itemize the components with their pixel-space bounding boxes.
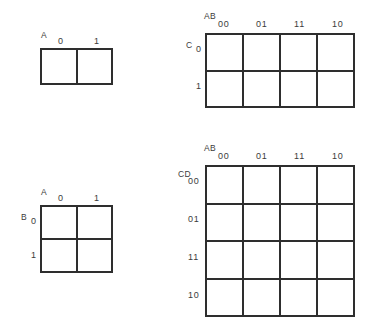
kmap-cell[interactable] [244,72,281,109]
kmap-cell[interactable] [244,35,281,72]
kmap-cell[interactable] [244,205,281,243]
kmap-cell[interactable] [207,205,244,243]
kmap-cell[interactable] [78,50,114,85]
column-header-1: 1 [94,36,100,46]
kmap-cell[interactable] [207,242,244,280]
column-header-1: 1 [94,193,100,203]
column-header-01: 01 [256,151,268,161]
column-header-00: 00 [218,151,230,161]
column-variable-label: AB [204,143,216,153]
kmap-cell[interactable] [318,35,355,72]
kmap-cell[interactable] [244,167,281,205]
row-header-0: 0 [31,216,37,226]
kmap-cell[interactable] [207,280,244,318]
kmap-cell[interactable] [318,280,355,318]
column-header-10: 10 [332,19,344,29]
column-header-00: 00 [218,19,230,29]
kmap-cell[interactable] [281,242,318,280]
kmap-cell[interactable] [78,207,114,240]
column-header-11: 11 [294,19,305,29]
row-header-11: 11 [188,252,199,262]
row-header-1: 1 [31,250,37,260]
kmap-cell[interactable] [42,50,78,85]
kmap-cell[interactable] [281,35,318,72]
kmap-cell[interactable] [281,167,318,205]
kmap-cell[interactable] [281,205,318,243]
kmap-grid [40,205,113,273]
kmap-cell[interactable] [244,280,281,318]
column-variable-label: AB [204,11,216,21]
column-header-0: 0 [58,36,64,46]
column-variable-label: A [41,30,47,40]
kmap-cell[interactable] [42,240,78,273]
kmap-cell[interactable] [42,207,78,240]
kmap-cell[interactable] [207,72,244,109]
kmap-cell[interactable] [318,167,355,205]
column-header-01: 01 [256,19,268,29]
kmap-cell[interactable] [318,242,355,280]
kmap-cell[interactable] [318,72,355,109]
kmap-cell[interactable] [281,280,318,318]
column-variable-label: A [41,187,47,197]
kmap-cell[interactable] [318,205,355,243]
kmap-cell[interactable] [78,240,114,273]
column-header-10: 10 [332,151,344,161]
row-header-1: 1 [196,81,202,91]
kmap-cell[interactable] [244,242,281,280]
column-header-11: 11 [294,151,305,161]
row-header-01: 01 [188,214,200,224]
row-variable-label: C [186,40,193,50]
kmap-cell[interactable] [207,167,244,205]
kmap-cell[interactable] [281,72,318,109]
kmap-grid [205,33,355,108]
row-variable-label: B [21,212,27,222]
row-header-0: 0 [196,44,202,54]
row-header-00: 00 [188,176,200,186]
kmap-cell[interactable] [207,35,244,72]
row-header-10: 10 [188,290,200,300]
kmap-grid [205,165,355,317]
column-header-0: 0 [58,193,64,203]
kmap-grid [40,48,113,85]
